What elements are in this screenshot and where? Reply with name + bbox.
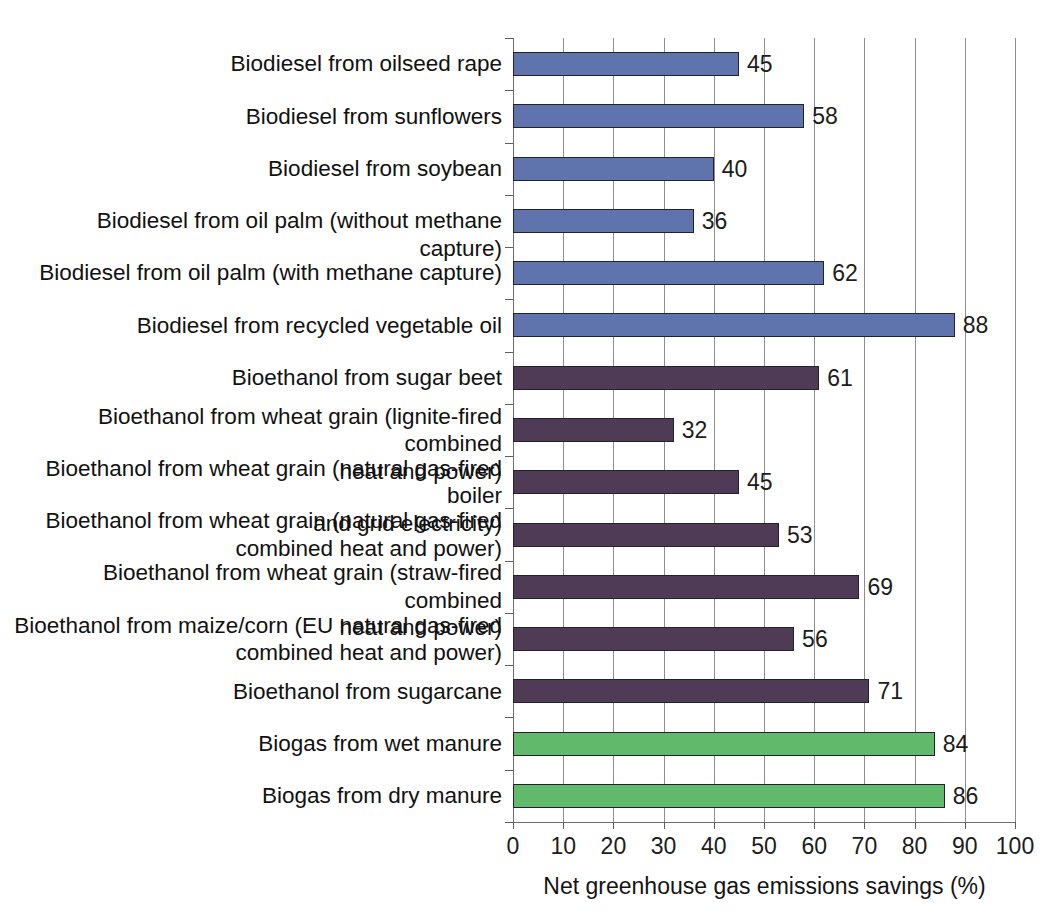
x-tick-80 <box>915 822 916 829</box>
x-tick-70 <box>864 822 865 829</box>
bar[interactable] <box>513 575 859 599</box>
x-tick-label-60: 60 <box>801 834 827 859</box>
category-tick <box>505 717 513 718</box>
bar[interactable] <box>513 418 674 442</box>
bar-value-label: 36 <box>702 209 728 232</box>
category-tick <box>505 822 513 823</box>
category-tick <box>505 143 513 144</box>
x-tick-label-50: 50 <box>751 834 777 859</box>
category-tick <box>505 770 513 771</box>
bar-row <box>513 366 1015 390</box>
bar-row <box>513 627 1015 651</box>
x-tick-60 <box>814 822 815 829</box>
bar-value-label: 56 <box>802 628 828 651</box>
bar-chart: Biodiesel from oilseed rapeBiodiesel fro… <box>0 0 1061 913</box>
x-tick-10 <box>563 822 564 829</box>
bar-row <box>513 732 1015 756</box>
bar-row <box>513 575 1015 599</box>
bar-row <box>513 261 1015 285</box>
bar[interactable] <box>513 313 955 337</box>
bar-row <box>513 104 1015 128</box>
bar-value-label: 32 <box>682 419 708 442</box>
category-label: Biodiesel from sunflowers <box>12 103 502 131</box>
bar-value-label: 69 <box>867 575 893 598</box>
bar-value-label: 45 <box>747 53 773 76</box>
category-tick <box>505 195 513 196</box>
bar-row <box>513 157 1015 181</box>
x-tick-30 <box>664 822 665 829</box>
category-tick <box>505 352 513 353</box>
bar[interactable] <box>513 261 824 285</box>
x-tick-label-90: 90 <box>952 834 978 859</box>
x-tick-label-100: 100 <box>996 834 1034 859</box>
x-tick-40 <box>714 822 715 829</box>
bar[interactable] <box>513 52 739 76</box>
category-label: Bioethanol from sugar beet <box>12 364 502 392</box>
category-label: Bioethanol from wheat grain (natural gas… <box>12 507 502 562</box>
bar-value-label: 62 <box>832 262 858 285</box>
category-label: Biogas from wet manure <box>12 730 502 758</box>
category-tick <box>505 456 513 457</box>
gridline-100 <box>1015 38 1016 822</box>
bar-row <box>513 209 1015 233</box>
bar[interactable] <box>513 157 714 181</box>
x-tick-20 <box>613 822 614 829</box>
bar[interactable] <box>513 784 945 808</box>
bar[interactable] <box>513 104 804 128</box>
category-label: Biodiesel from soybean <box>12 155 502 183</box>
x-tick-label-0: 0 <box>507 834 520 859</box>
x-tick-label-20: 20 <box>601 834 627 859</box>
category-label: Biogas from dry manure <box>12 782 502 810</box>
x-tick-100 <box>1015 822 1016 829</box>
category-tick <box>505 247 513 248</box>
bar[interactable] <box>513 523 779 547</box>
x-tick-0 <box>513 822 514 829</box>
bar-row <box>513 313 1015 337</box>
bar-value-label: 88 <box>963 314 989 337</box>
bar-row <box>513 784 1015 808</box>
bar[interactable] <box>513 470 739 494</box>
bar[interactable] <box>513 366 819 390</box>
category-tick <box>505 38 513 39</box>
bar-value-label: 86 <box>953 784 979 807</box>
plot-area <box>513 38 1015 822</box>
category-tick <box>505 665 513 666</box>
category-tick <box>505 508 513 509</box>
bar[interactable] <box>513 732 935 756</box>
x-tick-90 <box>965 822 966 829</box>
category-tick <box>505 90 513 91</box>
category-label: Biodiesel from recycled vegetable oil <box>12 312 502 340</box>
category-label: Biodiesel from oil palm (with methane ca… <box>12 259 502 287</box>
x-tick-label-80: 80 <box>902 834 928 859</box>
x-tick-label-70: 70 <box>852 834 878 859</box>
x-tick-50 <box>764 822 765 829</box>
category-tick <box>505 299 513 300</box>
bar-row <box>513 523 1015 547</box>
bar-value-label: 71 <box>877 680 903 703</box>
category-label: Biodiesel from oil palm (without methane… <box>12 207 502 262</box>
category-label: Bioethanol from maize/corn (EU natural g… <box>12 612 502 667</box>
x-tick-label-40: 40 <box>701 834 727 859</box>
bar[interactable] <box>513 627 794 651</box>
bar-value-label: 40 <box>722 157 748 180</box>
bar-row <box>513 679 1015 703</box>
x-tick-label-30: 30 <box>651 834 677 859</box>
bar-value-label: 45 <box>747 471 773 494</box>
category-tick <box>505 404 513 405</box>
bar-value-label: 58 <box>812 105 838 128</box>
bar-value-label: 84 <box>943 732 969 755</box>
bar-value-label: 61 <box>827 366 853 389</box>
category-tick <box>505 613 513 614</box>
x-tick-label-10: 10 <box>550 834 576 859</box>
bar-value-label: 53 <box>787 523 813 546</box>
category-label: Biodiesel from oilseed rape <box>12 50 502 78</box>
category-label: Bioethanol from sugarcane <box>12 678 502 706</box>
bar[interactable] <box>513 679 869 703</box>
bar-row <box>513 418 1015 442</box>
category-tick <box>505 561 513 562</box>
bar[interactable] <box>513 209 694 233</box>
x-axis-title: Net greenhouse gas emissions savings (%) <box>513 873 1016 900</box>
